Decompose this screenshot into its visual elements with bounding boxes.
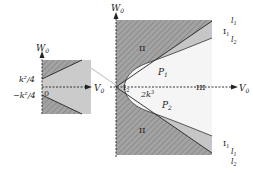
region-III-label: III xyxy=(196,83,205,92)
main-w0-label: W0 xyxy=(111,3,124,14)
inset-tick-upper: k²/4 xyxy=(19,75,35,84)
line-l2-top-label: l2 xyxy=(231,35,237,45)
line-l1-top-label: l1 xyxy=(231,16,237,26)
inset-tick-lower: −k²/4 xyxy=(13,91,36,100)
v0-axis-arrow-icon xyxy=(231,85,238,90)
phase-diagram: W0 V0 II II III I2 I1 I1 P1 P2 2k3 l1 l2… xyxy=(0,0,253,173)
region-I1-bottom-label: I1 xyxy=(223,139,229,149)
main-v0-label: V0 xyxy=(239,83,250,94)
inset-panel: W0 V0 k²/4 −k²/4 0 xyxy=(13,43,105,114)
line-l2-bottom-label: l2 xyxy=(231,157,237,167)
w0-axis-arrow-icon xyxy=(114,12,119,19)
inset-origin-label: 0 xyxy=(44,89,49,98)
region-II-bottom-label: II xyxy=(139,126,145,135)
main-panel: W0 V0 II II III I2 I1 I1 P1 P2 2k3 l1 l2… xyxy=(110,3,250,167)
region-II-top-label: II xyxy=(139,44,145,53)
line-l1-bottom-label: l1 xyxy=(231,147,237,157)
region-I1-top-label: I1 xyxy=(223,27,229,37)
inset-v0-label: V0 xyxy=(94,83,105,94)
inset-w0-label: W0 xyxy=(36,43,49,54)
